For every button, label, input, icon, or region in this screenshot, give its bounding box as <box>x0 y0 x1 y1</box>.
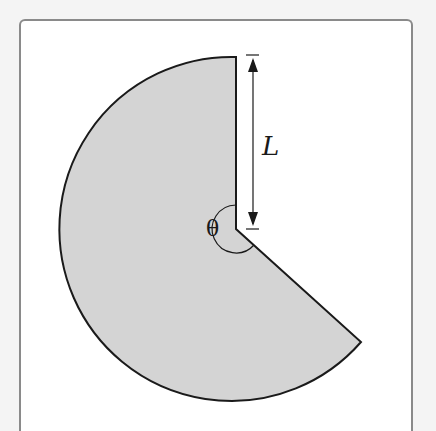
arrow-down-icon <box>248 212 258 226</box>
length-label: L <box>261 131 279 161</box>
angle-label: θ <box>206 216 219 241</box>
arrow-up-icon <box>248 58 258 72</box>
sector-diagram: L θ <box>0 0 436 431</box>
